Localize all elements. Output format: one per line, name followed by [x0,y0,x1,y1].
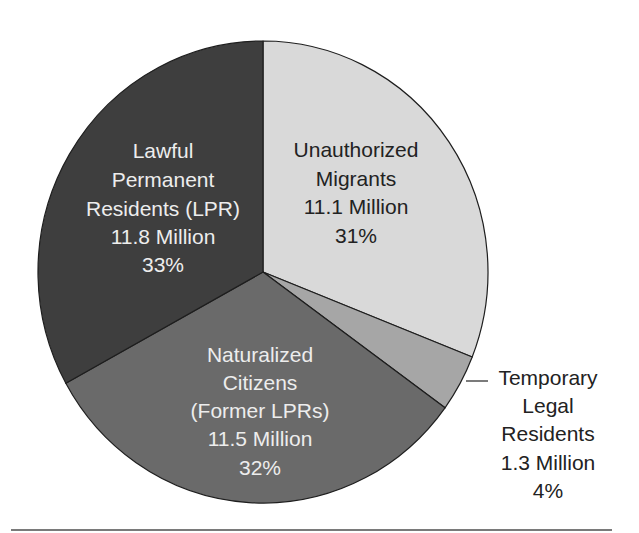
naturalized-label-line-3: (Former LPRs) [191,399,330,422]
unauthorized-label-line-1: Unauthorized [294,138,419,161]
naturalized-value: 11.5 Million [208,427,313,450]
lpr-label-line-1: Lawful [133,139,194,162]
temporary-label-line-3: Residents [501,422,594,445]
lpr-percent: 33% [142,253,184,276]
naturalized-percent: 32% [239,456,281,479]
lpr-value: 11.8 Million [111,225,216,248]
temporary-label-line-1: Temporary [498,366,598,389]
bottom-rule-divider [11,529,612,531]
naturalized-label-line-1: Naturalized [207,343,313,366]
temporary-percent: 4% [533,479,563,502]
unauthorized-percent: 31% [335,224,377,247]
temporary-label-line-2: Legal [522,394,573,417]
lpr-label-line-2: Permanent [112,168,215,191]
naturalized-label-line-2: Citizens [223,371,298,394]
lpr-label-line-3: Residents (LPR) [86,197,240,220]
pie-chart: Lawful Permanent Residents (LPR) 11.8 Mi… [0,0,639,533]
temporary-value: 1.3 Million [501,451,596,474]
unauthorized-value: 11.1 Million [304,195,409,218]
label-temporary: Temporary Legal Residents 1.3 Million 4% [498,366,598,502]
unauthorized-label-line-2: Migrants [316,167,397,190]
